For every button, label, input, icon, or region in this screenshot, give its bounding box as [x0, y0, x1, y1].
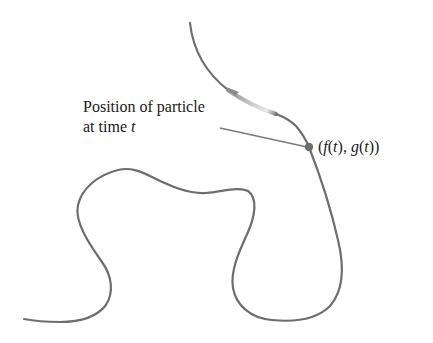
- parametric-curve-diagram: Position of particle at time t (f(t), g(…: [0, 0, 433, 343]
- point-coordinate-label: (f(t), g(t)): [318, 137, 379, 157]
- function-g: g: [351, 138, 359, 155]
- paren-close: ): [374, 138, 379, 155]
- particle-annotation: Position of particle at time t: [83, 97, 205, 137]
- function-g-arg: (t): [359, 138, 374, 155]
- time-variable: t: [131, 118, 135, 135]
- function-f-arg: (t): [328, 138, 343, 155]
- annotation-line-2: at time t: [83, 117, 205, 137]
- curve-figure: [0, 0, 433, 343]
- coordinate-separator: ,: [343, 138, 351, 155]
- particle-point-marker: [305, 143, 313, 151]
- leader-line: [220, 128, 307, 147]
- annotation-line-1: Position of particle: [83, 97, 205, 117]
- curve-main-path: [24, 114, 342, 322]
- annotation-line-2-prefix: at time: [83, 118, 131, 135]
- curve-upper-segment: [190, 23, 228, 90]
